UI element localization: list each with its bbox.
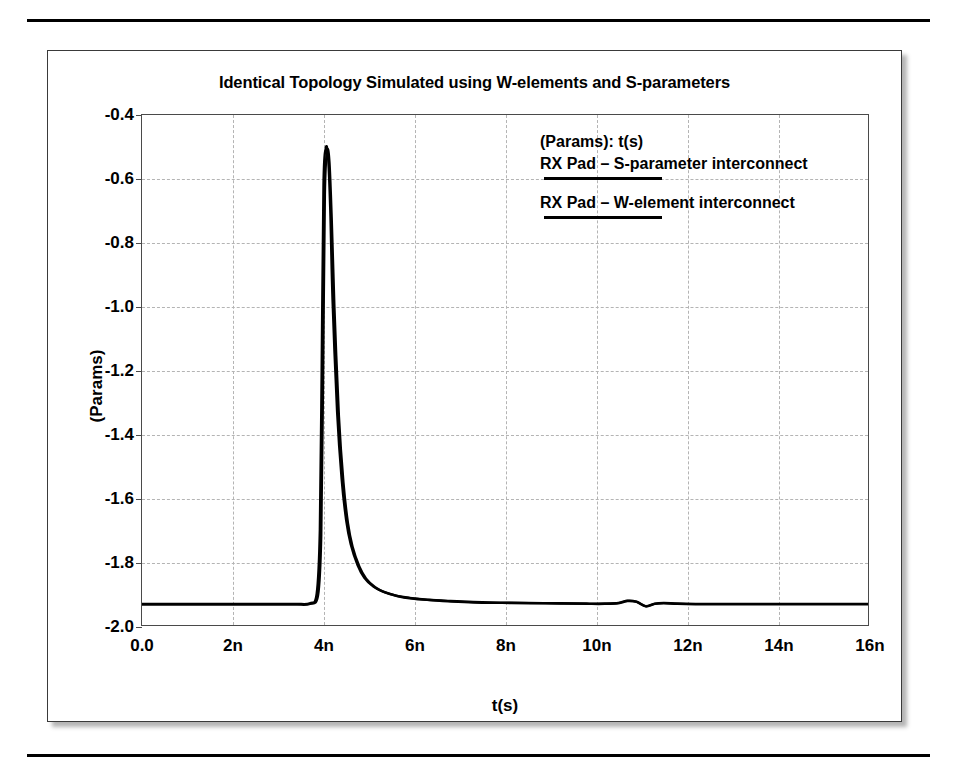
legend-label: RX Pad – S-parameter interconnect (540, 155, 870, 173)
x-tick-label: 4n (314, 636, 334, 656)
page-rule-bottom (27, 754, 930, 757)
legend-entry-w-element[interactable]: RX Pad – W-element interconnect (540, 194, 870, 219)
legend-swatch-line-icon (544, 216, 662, 219)
plot-area: (Params): t(s) RX Pad – S-parameter inte… (141, 114, 869, 626)
y-tick-mark (136, 243, 142, 244)
y-tick-mark (136, 435, 142, 436)
y-tick-mark (136, 179, 142, 180)
y-tick-label: -1.4 (105, 425, 134, 445)
chart-title: Identical Topology Simulated using W-ele… (48, 73, 901, 92)
y-tick-label: -0.6 (105, 169, 134, 189)
y-axis-label: (Params) (87, 350, 107, 423)
x-tick-label: 2n (223, 636, 243, 656)
x-tick-label: 14n (764, 636, 793, 656)
y-tick-mark (136, 627, 142, 628)
y-tick-label: -1.2 (105, 361, 134, 381)
y-tick-mark (136, 115, 142, 116)
x-tick-label: 0.0 (130, 636, 154, 656)
legend-swatch-line-icon (544, 177, 662, 180)
legend-entry-s-parameter[interactable]: RX Pad – S-parameter interconnect (540, 155, 870, 180)
page-rule-top (27, 19, 930, 22)
figure-container: Identical Topology Simulated using W-ele… (47, 50, 902, 722)
y-tick-label: -0.4 (105, 105, 134, 125)
y-tick-label: -1.6 (105, 489, 134, 509)
y-tick-label: -0.8 (105, 233, 134, 253)
x-tick-label: 10n (582, 636, 611, 656)
chart-legend: (Params): t(s) RX Pad – S-parameter inte… (540, 133, 870, 253)
x-tick-label: 6n (405, 636, 425, 656)
x-tick-label: 12n (673, 636, 702, 656)
y-tick-mark (136, 563, 142, 564)
x-tick-label: 16n (855, 636, 884, 656)
y-tick-label: -1.0 (105, 297, 134, 317)
x-tick-label: 8n (496, 636, 516, 656)
legend-title: (Params): t(s) (540, 133, 870, 151)
y-tick-mark (136, 499, 142, 500)
legend-label: RX Pad – W-element interconnect (540, 194, 870, 212)
y-tick-mark (136, 371, 142, 372)
y-tick-mark (136, 307, 142, 308)
y-tick-label: -1.8 (105, 553, 134, 573)
y-tick-label: -2.0 (105, 617, 134, 637)
x-axis-label: t(s) (141, 696, 869, 716)
